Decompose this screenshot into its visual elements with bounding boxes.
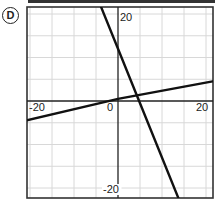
x-tick-label: 0 bbox=[107, 101, 113, 113]
x-tick-label: 20 bbox=[196, 101, 208, 113]
y-tick-label: 20 bbox=[120, 11, 132, 23]
y-tick-label: -20 bbox=[103, 183, 119, 195]
grid bbox=[27, 7, 213, 198]
x-tick-label: -20 bbox=[29, 101, 45, 113]
plotted-lines bbox=[26, 5, 213, 201]
graph: -2002020-20 bbox=[0, 0, 215, 202]
